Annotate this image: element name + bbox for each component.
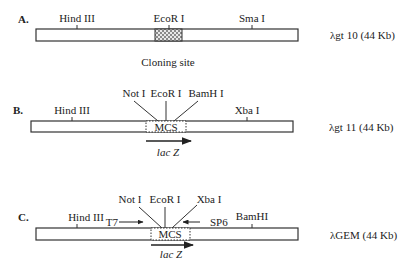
bamh-i-site-label: BamH I — [188, 87, 223, 99]
mcs-label: MCS — [158, 228, 181, 240]
hind-iii-site-label: Hind III — [68, 211, 104, 223]
lacz-label: lac Z — [157, 146, 180, 158]
panel-b: B. MCS Hind III Not I EcoR I BamH I Xba … — [13, 87, 394, 158]
vector-name-lambda-gem: λGEM (44 Kb) — [330, 229, 397, 242]
bamhi-site-label: BamHI — [236, 210, 269, 222]
panel-c-label: C. — [18, 211, 29, 223]
vector-name-lambda-gt10: λgt 10 (44 Kb) — [330, 29, 395, 42]
sp6-promoter-label: SP6 — [210, 216, 228, 228]
cloning-site-label: Cloning site — [141, 56, 195, 68]
mcs-label: MCS — [154, 121, 177, 133]
xba-i-pointer-line — [172, 205, 197, 228]
vector-name-lambda-gt11: λgt 11 (44 Kb) — [329, 121, 394, 134]
panel-c: C. MCS Hind III Not I EcoR I Xba I BamHI… — [18, 193, 397, 260]
panel-b-label: B. — [13, 104, 23, 116]
not-i-pointer-line — [134, 101, 158, 121]
t7-promoter-label: T7 — [106, 216, 119, 228]
not-i-pointer-line — [139, 207, 162, 228]
xba-i-site-label: Xba I — [197, 193, 222, 205]
panel-a-label: A. — [18, 13, 29, 25]
cloning-site-region — [155, 29, 182, 41]
not-i-site-label: Not I — [119, 193, 142, 205]
panel-a: A. Hind III EcoR I Sma I Cloning site λg… — [18, 12, 395, 68]
not-i-site-label: Not I — [123, 87, 146, 99]
bamh-i-pointer-line — [174, 101, 198, 121]
ecor-i-site-label: EcoR I — [150, 193, 181, 205]
sma-i-site-label: Sma I — [239, 12, 265, 24]
lacz-label: lac Z — [160, 248, 183, 260]
ecor-i-site-label: EcoR I — [151, 87, 182, 99]
ecor-i-site-label: EcoR I — [154, 12, 185, 24]
vector-map-diagram: A. Hind III EcoR I Sma I Cloning site λg… — [0, 0, 417, 273]
hind-iii-site-label: Hind III — [59, 12, 95, 24]
hind-iii-site-label: Hind III — [54, 104, 90, 116]
xba-i-site-label: Xba I — [235, 104, 260, 116]
